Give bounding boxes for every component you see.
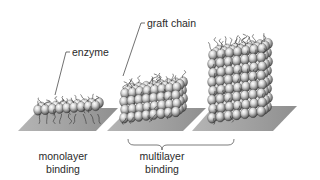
- enzyme-sphere: [208, 95, 217, 105]
- enzyme-sphere: [91, 100, 100, 110]
- enzyme-sphere: [257, 88, 266, 98]
- multilayer-bracket: [128, 139, 234, 150]
- enzyme-sphere: [241, 81, 250, 91]
- enzyme-sphere: [257, 106, 266, 116]
- enzyme-sphere: [208, 113, 217, 123]
- enzyme-sphere: [233, 83, 242, 93]
- enzyme-sphere: [225, 84, 234, 94]
- panel-multilayer-short: [120, 70, 188, 124]
- enzyme-sphere: [250, 44, 259, 54]
- enzyme-sphere: [233, 47, 242, 57]
- enzyme-sphere: [258, 97, 267, 107]
- enzyme-sphere: [240, 90, 249, 100]
- monolayer-binding-caption: monolayer binding: [28, 150, 98, 175]
- enzyme-sphere: [241, 63, 250, 73]
- enzyme-sphere: [240, 54, 249, 64]
- panel-multilayer-tall: [208, 33, 273, 124]
- enzyme-sphere: [216, 112, 225, 122]
- enzyme-sphere: [225, 66, 234, 76]
- graft-chain-leader-line: [123, 23, 145, 76]
- enzyme-sphere: [250, 62, 259, 72]
- enzyme-sphere: [225, 102, 234, 112]
- graft-chain: [241, 34, 246, 43]
- enzyme-sphere: [232, 56, 241, 66]
- enzyme-sphere: [216, 76, 225, 86]
- enzyme-sphere: [250, 80, 259, 90]
- graft-chain: [81, 94, 85, 100]
- monolayer-caption-line1: monolayer: [28, 150, 98, 163]
- enzyme-sphere: [257, 52, 266, 62]
- enzyme-sphere: [217, 67, 226, 77]
- enzyme-sphere: [258, 61, 267, 71]
- enzyme-sphere: [171, 107, 180, 117]
- enzyme-sphere: [249, 89, 258, 99]
- enzyme-sphere: [209, 86, 218, 96]
- enzyme-sphere: [209, 68, 218, 78]
- enzyme-sphere: [249, 107, 258, 117]
- enzyme-leader-line: [55, 52, 70, 95]
- multilayer-caption-line1: multilayer: [127, 150, 197, 163]
- graft-chain: [208, 42, 212, 51]
- enzyme-sphere: [225, 48, 234, 58]
- enzyme-sphere: [217, 103, 226, 113]
- multilayer-binding-caption: multilayer binding: [127, 150, 197, 175]
- enzyme-sphere: [216, 94, 225, 104]
- enzyme-sphere: [224, 75, 233, 85]
- enzyme-sphere: [240, 72, 249, 82]
- graft-chain: [214, 37, 218, 46]
- enzyme-sphere: [258, 79, 267, 89]
- enzyme-sphere: [257, 70, 266, 80]
- graft-chain-callout-label: graft chain: [147, 17, 196, 29]
- enzyme-sphere: [240, 108, 249, 118]
- enzyme-sphere: [241, 99, 250, 109]
- enzyme-sphere: [217, 49, 226, 59]
- enzyme-sphere: [224, 57, 233, 67]
- enzyme-sphere: [232, 92, 241, 102]
- enzyme-sphere: [232, 110, 241, 120]
- enzyme-callout-label: enzyme: [72, 46, 109, 58]
- multilayer-caption-line2: binding: [127, 163, 197, 176]
- enzyme-sphere: [208, 77, 217, 87]
- enzyme-sphere: [233, 65, 242, 75]
- graft-chain: [225, 36, 226, 45]
- enzyme-sphere: [250, 98, 259, 108]
- enzyme-sphere: [224, 111, 233, 121]
- enzyme-sphere: [249, 53, 258, 63]
- enzyme-sphere: [258, 43, 267, 53]
- enzyme-sphere: [216, 58, 225, 68]
- enzyme-sphere: [209, 50, 218, 60]
- monolayer-caption-line2: binding: [28, 163, 98, 176]
